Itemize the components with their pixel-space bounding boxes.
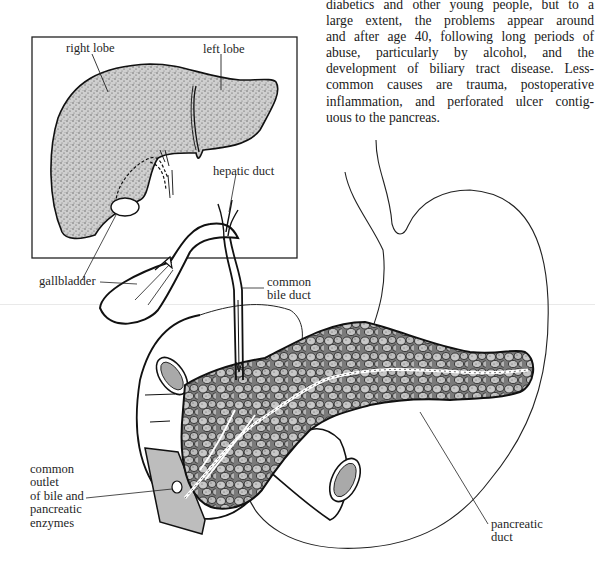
label-right-lobe: right lobe — [66, 42, 115, 55]
stomach-outline — [345, 172, 384, 330]
label-line: enzymes — [30, 517, 84, 530]
down-arrow-icon — [236, 300, 242, 372]
label-gallbladder: gallbladder — [39, 275, 96, 288]
label-common-bile-duct: common bile duct — [267, 276, 311, 303]
label-hepatic-duct: hepatic duct — [213, 165, 274, 178]
label-common-outlet: common outlet of bile and pancreatic enz… — [30, 463, 84, 530]
label-left-lobe: left lobe — [203, 43, 245, 56]
label-pancreatic-duct: pancreatic duct — [491, 518, 543, 545]
ampulla-outlet — [172, 481, 182, 493]
label-line: pancreatic — [491, 518, 543, 531]
label-line: common — [30, 463, 84, 476]
common-bile-duct — [224, 238, 243, 380]
label-line: of bile and — [30, 490, 84, 503]
label-line: outlet — [30, 476, 84, 489]
duodenum-bulb — [200, 305, 302, 350]
label-line: duct — [491, 531, 543, 544]
liver-inset — [32, 37, 297, 258]
leader-line — [420, 412, 488, 524]
label-line: common — [267, 276, 311, 289]
label-line: pancreatic — [30, 503, 84, 516]
label-line: bile duct — [267, 289, 311, 302]
